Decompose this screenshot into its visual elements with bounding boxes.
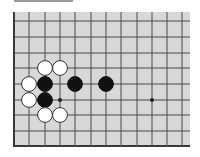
white-stone [22, 93, 37, 108]
go-board-diagram [0, 0, 200, 157]
star-point [150, 98, 154, 102]
black-stone [38, 93, 53, 108]
white-stone [22, 77, 37, 92]
white-stone [38, 108, 53, 123]
black-stone [99, 77, 114, 92]
white-stone [38, 61, 53, 76]
white-stone [53, 61, 68, 76]
black-stone [68, 77, 83, 92]
black-stone [38, 77, 53, 92]
star-point [58, 98, 62, 102]
white-stone [53, 108, 68, 123]
